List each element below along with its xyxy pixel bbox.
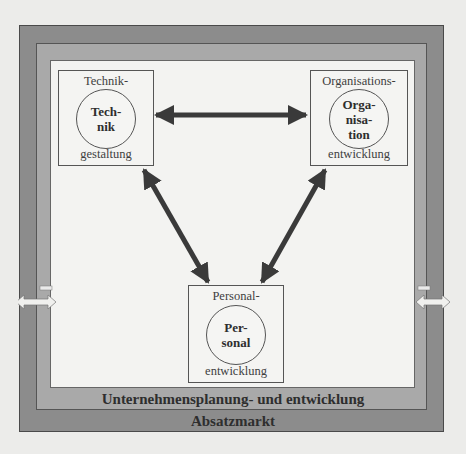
connection-arrows — [0, 0, 466, 454]
outer-band-label: Absatzmarkt — [0, 413, 466, 430]
middle-band-label: Unternehmensplanung- und entwicklung — [0, 391, 466, 408]
arrow-technik-personal — [144, 170, 208, 282]
arrow-organisation-personal — [262, 170, 325, 282]
left-side-arrow-icon — [18, 282, 58, 322]
right-side-arrow-icon — [412, 282, 458, 322]
